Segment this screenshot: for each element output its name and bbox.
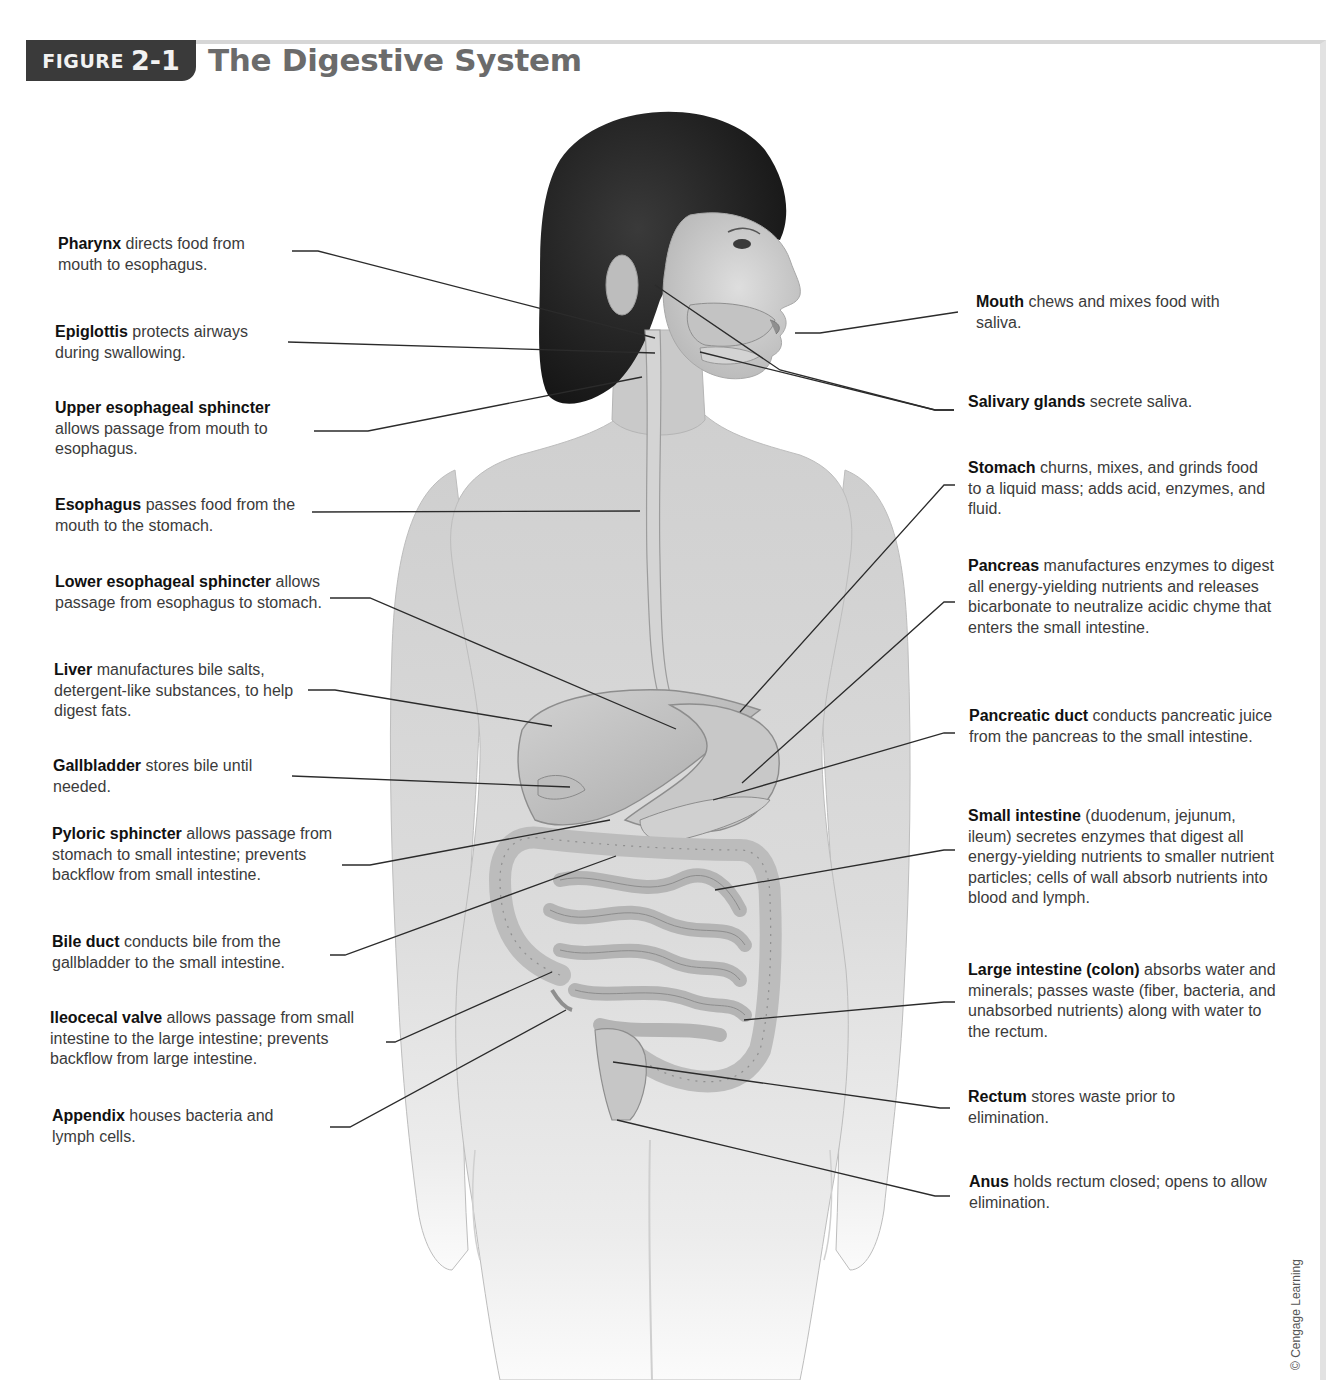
label-salivary-glands: Salivary glands secrete saliva. xyxy=(968,392,1248,413)
label-lower-esophageal-sphincter: Lower esophageal sphincter allows passag… xyxy=(55,572,325,613)
label-gallbladder: Gallbladder stores bile until needed. xyxy=(53,756,283,797)
ear xyxy=(606,255,638,315)
label-large-intestine: Large intestine (colon) absorbs water an… xyxy=(968,960,1286,1042)
label-mouth: Mouth chews and mixes food with saliva. xyxy=(976,292,1226,333)
label-anus: Anus holds rectum closed; opens to allow… xyxy=(969,1172,1269,1213)
eye xyxy=(733,239,751,249)
label-appendix: Appendix houses bacteria and lymph cells… xyxy=(52,1106,317,1147)
label-rectum: Rectum stores waste prior to elimination… xyxy=(968,1087,1228,1128)
label-pancreatic-duct: Pancreatic duct conducts pancreatic juic… xyxy=(969,706,1279,747)
label-ileocecal-valve: Ileocecal valve allows passage from smal… xyxy=(50,1008,370,1070)
label-small-intestine: Small intestine (duodenum, jejunum, ileu… xyxy=(968,806,1278,909)
label-pyloric-sphincter: Pyloric sphincter allows passage from st… xyxy=(52,824,337,886)
label-esophagus: Esophagus passes food from the mouth to … xyxy=(55,495,305,536)
label-stomach: Stomach churns, mixes, and grinds food t… xyxy=(968,458,1268,520)
label-upper-esophageal-sphincter: Upper esophageal sphincter allows passag… xyxy=(55,398,305,460)
label-liver: Liver manufactures bile salts, detergent… xyxy=(54,660,299,722)
label-pharynx: Pharynx directs food from mouth to esoph… xyxy=(58,234,288,275)
copyright-credit: © Cengage Learning xyxy=(1289,1259,1303,1370)
label-bile-duct: Bile duct conducts bile from the gallbla… xyxy=(52,932,327,973)
label-pancreas: Pancreas manufactures enzymes to digest … xyxy=(968,556,1283,638)
label-epiglottis: Epiglottis protects airways during swall… xyxy=(55,322,285,363)
